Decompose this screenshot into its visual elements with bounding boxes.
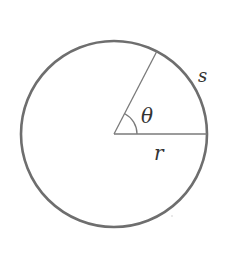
- circle-diagram: θ s r: [0, 0, 226, 255]
- radius-label-r: r: [154, 141, 165, 165]
- angle-arc-marker: [125, 114, 137, 134]
- stray-speck: [171, 215, 173, 217]
- arc-length-label-s: s: [198, 65, 207, 86]
- angle-label-theta: θ: [141, 104, 153, 128]
